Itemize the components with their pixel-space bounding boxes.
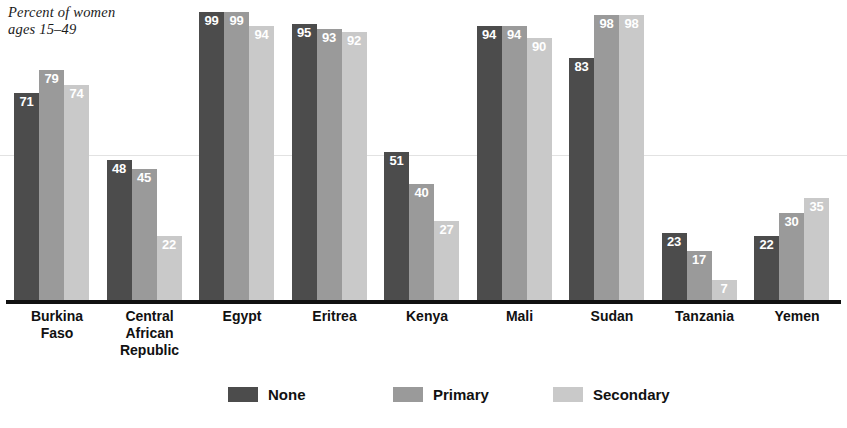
bar: 98 — [619, 15, 644, 300]
bar: 45 — [132, 169, 157, 300]
bar: 94 — [502, 26, 527, 300]
bar: 48 — [107, 160, 132, 300]
legend-swatch-icon — [228, 387, 258, 402]
bar-value-label: 7 — [721, 282, 728, 295]
legend-swatch-icon — [553, 387, 583, 402]
bar-value-label: 23 — [667, 235, 681, 248]
bar-value-label: 95 — [297, 26, 311, 39]
bar-group: 959392 — [292, 0, 378, 300]
bar-group: 999994 — [199, 0, 285, 300]
bar: 99 — [224, 12, 249, 300]
legend-label: Secondary — [593, 385, 670, 405]
bar-value-label: 51 — [390, 154, 404, 167]
bar-group: 514027 — [384, 0, 470, 300]
bar: 95 — [292, 24, 317, 300]
bar-group: 23177 — [662, 0, 748, 300]
bar-group: 717974 — [14, 0, 100, 300]
legend-label: None — [268, 385, 306, 405]
bar-value-label: 98 — [625, 17, 639, 30]
bar: 90 — [527, 38, 552, 300]
bar-value-label: 71 — [20, 95, 34, 108]
legend-label: Primary — [433, 385, 489, 405]
bar-value-label: 30 — [785, 215, 799, 228]
bar: 98 — [594, 15, 619, 300]
bar-group: 949490 — [477, 0, 563, 300]
bar-value-label: 17 — [692, 253, 706, 266]
bar-group: 839898 — [569, 0, 655, 300]
bar: 35 — [804, 198, 829, 300]
bar: 51 — [384, 152, 409, 300]
bar-value-label: 48 — [112, 162, 126, 175]
plot-area: 7179744845229999949593925140279494908398… — [0, 0, 847, 302]
bar-value-label: 99 — [205, 14, 219, 27]
legend-swatch-icon — [393, 387, 423, 402]
bar: 83 — [569, 58, 594, 300]
bar: 74 — [64, 85, 89, 300]
bar: 93 — [317, 29, 342, 300]
bar-value-label: 93 — [322, 31, 336, 44]
bar: 40 — [409, 184, 434, 300]
bar-chart: Percent of women ages 15–49 717974484522… — [0, 0, 847, 428]
chart-title: Percent of women ages 15–49 — [8, 4, 115, 38]
bar-value-label: 45 — [137, 171, 151, 184]
bar-value-label: 22 — [760, 238, 774, 251]
bar-value-label: 22 — [162, 238, 176, 251]
bar: 22 — [754, 236, 779, 300]
bar: 94 — [477, 26, 502, 300]
bar-value-label: 98 — [600, 17, 614, 30]
bar-value-label: 92 — [347, 34, 361, 47]
bar-value-label: 74 — [70, 87, 84, 100]
bar: 92 — [342, 32, 367, 300]
bar-value-label: 27 — [440, 223, 454, 236]
bar: 99 — [199, 12, 224, 300]
bar-group: 223035 — [754, 0, 840, 300]
bar: 27 — [434, 221, 459, 300]
bar-value-label: 40 — [415, 186, 429, 199]
bar-value-label: 79 — [45, 72, 59, 85]
bar: 17 — [687, 251, 712, 300]
bar-value-label: 94 — [255, 28, 269, 41]
x-axis-label: Yemen — [740, 308, 847, 325]
bar: 7 — [712, 280, 737, 300]
bar: 30 — [779, 213, 804, 300]
bar-value-label: 94 — [507, 28, 521, 41]
bar-value-label: 83 — [575, 60, 589, 73]
bar: 71 — [14, 93, 39, 300]
chart-legend: NonePrimarySecondary — [0, 385, 847, 415]
x-axis-labels: Burkina FasoCentral African RepublicEgyp… — [0, 308, 847, 378]
bar: 23 — [662, 233, 687, 300]
bar-value-label: 99 — [230, 14, 244, 27]
bar-value-label: 35 — [810, 200, 824, 213]
bar-value-label: 90 — [532, 40, 546, 53]
bar-group: 484522 — [107, 0, 193, 300]
bar: 79 — [39, 70, 64, 300]
bar: 94 — [249, 26, 274, 300]
x-axis-baseline — [6, 300, 841, 304]
bar-value-label: 94 — [482, 28, 496, 41]
bar: 22 — [157, 236, 182, 300]
